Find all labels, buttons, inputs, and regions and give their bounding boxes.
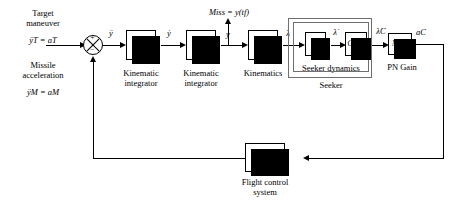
wire-bottom-right-to-g2: [305, 158, 444, 159]
arrowhead-into-pn-gain: [383, 42, 389, 48]
target-maneuver-equation: ÿT = aT: [10, 35, 76, 45]
block-label-kinematics: 1 VCτ: [254, 36, 273, 55]
arrowhead-into-integrator1: [120, 42, 126, 48]
block-kinematics[interactable]: 1 VCτ: [248, 30, 278, 60]
signal-accel-error: ÿ: [104, 28, 118, 38]
numerator: 1: [197, 36, 206, 45]
block-flight-control-system[interactable]: G2(s): [245, 143, 285, 172]
wire-miss-branch: [228, 23, 229, 45]
block-label-g2: G2(s): [255, 153, 274, 162]
signal-rate: ẏ: [162, 28, 176, 38]
block-kinematic-integrator-1[interactable]: 1 s: [126, 30, 156, 60]
label-miss-distance: Miss = y(tf): [170, 7, 288, 17]
arrowhead-into-g1: [340, 42, 346, 48]
caption-line1: Flight control: [242, 177, 289, 187]
signal-accel-command: aC: [414, 27, 428, 37]
target-maneuver-line1: Target: [32, 8, 53, 18]
block-label-pn-gain: N′VC: [392, 40, 408, 48]
sum-sign-top: +: [91, 35, 95, 42]
missile-accel-line2: acceleration: [22, 70, 63, 80]
block-kinematic-integrator-2[interactable]: 1 s: [186, 30, 216, 60]
caption-kinematic-integrator-1: Kinematic integrator: [110, 68, 172, 88]
arrowhead-miss: [225, 18, 231, 24]
target-maneuver-line2: maneuver: [26, 18, 60, 28]
block-label-kinematic-integrator-2: 1 s: [197, 36, 206, 55]
block-label-kinematic-integrator-1: 1 s: [137, 36, 146, 55]
block-label-differentiator: s: [314, 40, 318, 49]
wire-g2-to-left: [93, 158, 246, 159]
missile-acceleration-equation: ÿM = aM: [6, 87, 80, 97]
caption-line1: Kinematic: [183, 68, 218, 78]
caption-pn-gain: PN Gain: [380, 62, 424, 72]
arrowhead-into-integrator2: [180, 42, 186, 48]
block-label-g1: G1(s): [347, 40, 364, 48]
sum-junction: + −: [83, 35, 103, 55]
denominator: s: [197, 45, 206, 55]
sum-sign-bottom: −: [91, 47, 95, 54]
caption-line1: Kinematic: [123, 68, 158, 78]
block-differentiator[interactable]: s: [305, 32, 326, 56]
arrowhead-into-differentiator: [299, 42, 305, 48]
arrowhead-into-kinematics: [242, 42, 248, 48]
denominator: VCτ: [254, 45, 273, 55]
g1-text: G1(s): [347, 39, 364, 48]
numerator: 1: [254, 36, 273, 45]
block-diagram-canvas: Target maneuver ÿT = aT Missile accelera…: [0, 0, 461, 206]
arrowhead-feedback-into-sum: [90, 56, 96, 62]
arrowhead-into-g2: [303, 155, 309, 161]
missile-accel-line1: Missile: [30, 60, 55, 70]
missile-acceleration-caption: Missile acceleration: [6, 60, 80, 80]
wire-right-down: [443, 44, 444, 159]
denominator: s: [137, 45, 146, 55]
numerator: 1: [137, 36, 146, 45]
caption-flight-control-system: Flight control system: [225, 177, 305, 197]
caption-kinematics: Kinematics: [233, 68, 293, 78]
label-seeker: Seeker: [296, 80, 366, 90]
block-pn-gain[interactable]: N′VC: [388, 33, 412, 55]
target-maneuver-caption: Target maneuver: [10, 8, 76, 28]
caption-line2: system: [253, 187, 277, 197]
block-seeker-transfer-function[interactable]: G1(s): [345, 32, 367, 56]
caption-line2: integrator: [184, 78, 217, 88]
wire-left-up-to-sum: [93, 60, 94, 158]
caption-kinematic-integrator-2: Kinematic integrator: [170, 68, 232, 88]
caption-line2: integrator: [124, 78, 157, 88]
wire-target-to-sum: [46, 45, 82, 46]
